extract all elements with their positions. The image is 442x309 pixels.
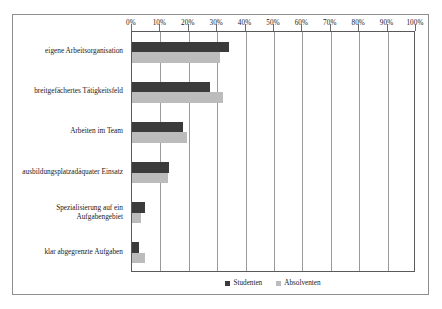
bar-absolventen — [132, 253, 145, 264]
category-label: eigene Arbeitsorganisation — [14, 46, 123, 55]
bar-studenten — [132, 242, 139, 253]
x-axis-tick-mark — [358, 24, 359, 31]
category-label: breitgefächertes Tätigkeitsfeld — [14, 87, 123, 96]
bar-studenten — [132, 202, 145, 213]
bar-absolventen — [132, 132, 187, 143]
bar-group — [132, 72, 414, 112]
x-axis-tick-mark — [301, 24, 302, 31]
bar-group — [132, 153, 414, 193]
bar-absolventen — [132, 92, 223, 103]
x-axis-tick-mark — [387, 24, 388, 31]
chart-legend: StudentenAbsolventen — [131, 276, 415, 290]
category-label: klar abgegrenzte Aufgaben — [14, 247, 123, 256]
legend-item[interactable]: Absolventen — [276, 279, 320, 288]
bar-studenten — [132, 82, 210, 93]
plot-area — [131, 31, 415, 272]
bar-absolventen — [132, 173, 168, 184]
bar-studenten — [132, 122, 183, 133]
legend-label: Absolventen — [284, 279, 320, 288]
x-axis-ticks — [131, 0, 415, 31]
x-axis-tick-mark — [245, 24, 246, 31]
category-label: Arbeiten im Team — [14, 127, 123, 136]
x-axis-tick-mark — [273, 24, 274, 31]
x-axis-tick-mark — [159, 24, 160, 31]
bar-rows — [132, 32, 414, 271]
bar-absolventen — [132, 52, 220, 63]
legend-swatch-icon — [276, 281, 281, 286]
bar-group — [132, 233, 414, 273]
legend-item[interactable]: Studenten — [225, 279, 262, 288]
bar-absolventen — [132, 213, 141, 224]
bar-group — [132, 32, 414, 72]
legend-swatch-icon — [225, 281, 230, 286]
legend-label: Studenten — [233, 279, 262, 288]
chart-figure: 0%10%20%30%40%50%60%70%80%90%100% eigene… — [0, 0, 442, 309]
category-label: Spezialisierung auf ein Aufgabengebiet — [14, 202, 123, 221]
x-axis-tick-mark — [216, 24, 217, 31]
x-axis-tick-mark — [415, 24, 416, 31]
category-label: ausbildungsplatzadäquater Einsatz — [14, 167, 123, 176]
x-axis-tick-mark — [131, 24, 132, 31]
bar-studenten — [132, 42, 229, 53]
x-axis-tick-mark — [330, 24, 331, 31]
bar-studenten — [132, 162, 169, 173]
bar-group — [132, 193, 414, 233]
bar-group — [132, 112, 414, 152]
x-axis-tick-mark — [188, 24, 189, 31]
category-axis-labels: eigene Arbeitsorganisationbreitgefächert… — [14, 31, 127, 272]
